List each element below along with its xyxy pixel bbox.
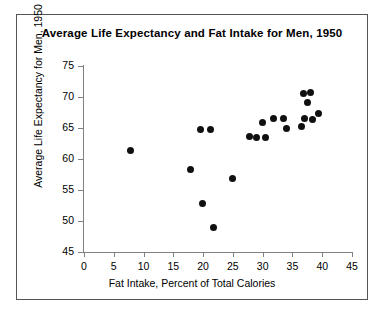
y-tick-label: 70	[46, 91, 74, 102]
x-tick-label: 45	[337, 260, 367, 272]
scatter-point	[315, 110, 322, 117]
x-tick-mark	[292, 252, 293, 257]
x-tick-mark	[352, 252, 353, 257]
x-tick-label: 5	[99, 260, 129, 272]
x-tick-label: 40	[307, 260, 337, 272]
scatter-point	[197, 126, 204, 133]
x-tick-label: 25	[218, 260, 248, 272]
scatter-point	[229, 175, 236, 182]
x-tick-label: 10	[129, 260, 159, 272]
x-tick-label: 30	[248, 260, 278, 272]
y-axis-label: Average Life Expectancy for Men, 1950	[32, 0, 44, 196]
y-tick-label: 60	[46, 153, 74, 164]
scatter-point	[259, 119, 266, 126]
x-tick-mark	[114, 252, 115, 257]
x-tick-label: 20	[188, 260, 218, 272]
x-tick-mark	[322, 252, 323, 257]
x-tick-mark	[144, 252, 145, 257]
chart-title: Average Life Expectancy and Fat Intake f…	[16, 27, 368, 39]
x-tick-label: 35	[277, 260, 307, 272]
scatter-point	[253, 134, 260, 141]
y-tick-label: 45	[46, 246, 74, 257]
y-tick-label: 55	[46, 184, 74, 195]
scatter-point	[309, 116, 316, 123]
scatter-point	[300, 90, 307, 97]
x-tick-mark	[233, 252, 234, 257]
x-tick-mark	[84, 252, 85, 257]
x-tick-mark	[203, 252, 204, 257]
x-axis-label: Fat Intake, Percent of Total Calories	[30, 277, 354, 289]
scatter-point	[301, 115, 308, 122]
x-tick-mark	[263, 252, 264, 257]
x-axis-line	[83, 252, 353, 253]
x-tick-label: 0	[69, 260, 99, 272]
scatter-point	[199, 200, 206, 207]
y-tick-label: 50	[46, 215, 74, 226]
x-tick-label: 15	[158, 260, 188, 272]
y-tick-label: 65	[46, 122, 74, 133]
y-tick-label: 75	[46, 60, 74, 71]
scatter-point	[262, 134, 269, 141]
scatter-point	[307, 89, 314, 96]
x-tick-mark	[173, 252, 174, 257]
chart-figure: Average Life Expectancy and Fat Intake f…	[0, 0, 384, 316]
